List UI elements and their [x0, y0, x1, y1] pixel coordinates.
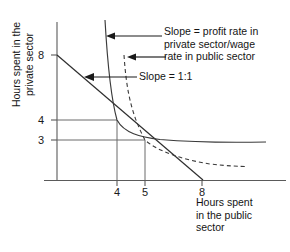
x-tick-label-4: 4: [114, 186, 120, 198]
arrowhead-dashed-curve: [127, 54, 136, 61]
x-tick-label-5: 5: [142, 186, 148, 198]
annotation-slope-one-to-one: Slope = 1:1: [139, 70, 229, 83]
economics-diagram-figure: 8 4 3 4 5 8 Hours spent in the private s…: [0, 0, 290, 252]
y-tick-label-4: 4: [38, 114, 44, 126]
y-axis-caption: Hours spent in the private sector: [10, 13, 35, 117]
arrowhead-solid-curve: [106, 33, 115, 40]
y-tick-label-3: 3: [38, 134, 44, 146]
x-axis-caption: Hours spent in the public sector: [196, 196, 288, 234]
y-tick-label-8: 8: [38, 49, 44, 61]
annotation-slope-profit-rate: Slope = profit rate in private sector/wa…: [164, 25, 290, 63]
